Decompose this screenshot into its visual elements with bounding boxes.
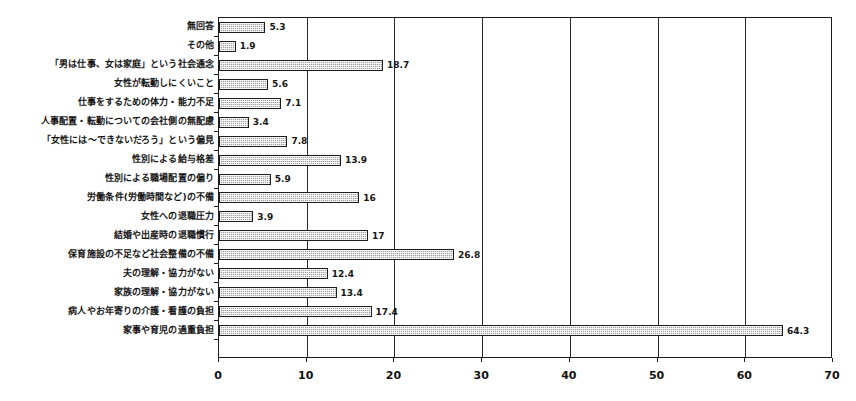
category-labels-axis: 無回答その他「男は仕事、女は家庭」という社会通念女性が転勤しにくいこと仕事をする…	[0, 17, 214, 358]
category-tick-mark	[214, 282, 219, 283]
bar-value-label: 64.3	[787, 326, 809, 336]
gridline-50	[658, 18, 659, 357]
category-tick-mark	[214, 244, 219, 245]
bar	[219, 22, 265, 33]
category-label: 性別による給与格差	[0, 154, 214, 164]
bar	[219, 136, 287, 147]
x-tick-label: 30	[461, 370, 501, 382]
category-tick-mark	[214, 131, 219, 132]
category-tick-mark	[214, 263, 219, 264]
gridline-60	[745, 18, 746, 357]
category-label: 女性が転勤しにくいこと	[0, 78, 214, 88]
gridline-40	[570, 18, 571, 357]
bar	[219, 41, 236, 52]
bar	[219, 174, 271, 185]
bar-value-label: 5.9	[275, 174, 291, 184]
category-label: 保育施設の不足など社会整備の不備	[0, 249, 214, 259]
bar	[219, 268, 328, 279]
category-label: 「男は仕事、女は家庭」という社会通念	[0, 59, 214, 69]
bar-value-label: 1.9	[240, 41, 256, 51]
gridline-30	[482, 18, 483, 357]
bar-value-label: 17.4	[376, 307, 398, 317]
category-label: 結婚や出産時の退職慣行	[0, 230, 214, 240]
category-tick-mark	[214, 93, 219, 94]
bar-value-label: 5.3	[269, 22, 285, 32]
category-label: 「女性には～できないだろう」という偏見	[0, 135, 214, 145]
x-tick-label: 60	[724, 370, 764, 382]
bar	[219, 79, 268, 90]
category-tick-mark	[214, 301, 219, 302]
bar	[219, 155, 341, 166]
bar-value-label: 7.8	[291, 136, 307, 146]
bar-value-label: 26.8	[458, 250, 480, 260]
category-tick-mark	[214, 74, 219, 75]
bar-value-label: 17	[372, 231, 385, 241]
bar-value-label: 3.9	[257, 212, 273, 222]
bar-value-label: 16	[363, 193, 376, 203]
bar	[219, 306, 372, 317]
category-label: 家事や育児の過重負担	[0, 325, 214, 335]
bar-value-label: 18.7	[387, 60, 409, 70]
x-tick-mark-70	[832, 358, 833, 362]
category-label: 夫の理解・協力がない	[0, 268, 214, 278]
x-tick-mark-0	[218, 358, 219, 362]
x-tick-label: 0	[198, 370, 238, 382]
bar-value-label: 13.4	[341, 288, 363, 298]
category-label: 無回答	[0, 21, 214, 31]
x-tick-label: 10	[286, 370, 326, 382]
category-tick-mark	[214, 206, 219, 207]
category-label: その他	[0, 40, 214, 50]
x-tick-mark-60	[744, 358, 745, 362]
x-tick-mark-20	[393, 358, 394, 362]
category-label: 家族の理解・協力がない	[0, 287, 214, 297]
category-tick-mark	[214, 55, 219, 56]
bar-value-label: 3.4	[253, 117, 269, 127]
category-label: 仕事をするための体力・能力不足	[0, 97, 214, 107]
bar	[219, 230, 368, 241]
category-label: 病人やお年寄りの介護・看護の負担	[0, 306, 214, 316]
bar	[219, 211, 253, 222]
x-tick-mark-40	[569, 358, 570, 362]
x-tick-label: 20	[373, 370, 413, 382]
category-label: 性別による職場配置の偏り	[0, 173, 214, 183]
bar	[219, 287, 337, 298]
bar	[219, 325, 783, 336]
bar-value-label: 5.6	[272, 79, 288, 89]
x-tick-mark-10	[306, 358, 307, 362]
x-tick-label: 70	[812, 370, 852, 382]
category-tick-mark	[214, 112, 219, 113]
x-tick-label: 50	[637, 370, 677, 382]
category-tick-mark	[214, 150, 219, 151]
bar-value-label: 7.1	[285, 98, 301, 108]
bar-value-label: 12.4	[332, 269, 354, 279]
category-label: 労働条件(労働時間など)の不備	[0, 192, 214, 202]
category-tick-mark	[214, 225, 219, 226]
category-label: 女性への退職圧力	[0, 211, 214, 221]
category-tick-mark	[214, 339, 219, 340]
bar	[219, 249, 454, 260]
category-tick-mark	[214, 36, 219, 37]
plot-area: 5.31.918.75.67.13.47.813.95.9163.91726.8…	[218, 17, 832, 358]
bar	[219, 192, 359, 203]
bar	[219, 98, 281, 109]
x-tick-label: 40	[549, 370, 589, 382]
x-tick-mark-50	[657, 358, 658, 362]
category-tick-mark	[214, 320, 219, 321]
category-tick-mark	[214, 169, 219, 170]
bar	[219, 60, 383, 71]
category-tick-mark	[214, 188, 219, 189]
category-label: 人事配置・転勤についての会社側の無配慮	[0, 116, 214, 126]
horizontal-bar-chart: 無回答その他「男は仕事、女は家庭」という社会通念女性が転勤しにくいこと仕事をする…	[0, 0, 856, 401]
x-tick-mark-30	[481, 358, 482, 362]
bar	[219, 117, 249, 128]
bar-value-label: 13.9	[345, 155, 367, 165]
